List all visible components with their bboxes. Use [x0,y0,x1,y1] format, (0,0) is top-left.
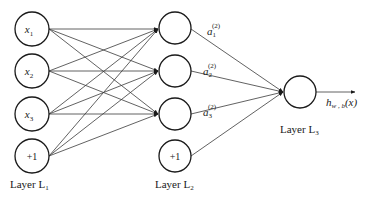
layer-3-label: Layer L3 [280,123,319,137]
layer-2-label: Layer L2 [155,178,194,192]
input-node-x3 [15,97,49,131]
hidden-node-1 [159,12,191,44]
input-node-x1 [15,12,49,46]
hidden-node-2 [159,55,191,87]
edges-l1-l2 [49,29,158,156]
layer-1-label: Layer L1 [10,178,49,192]
svg-text:+1: +1 [170,151,181,162]
neural-network-diagram: x1 x2 x3 +1 Layer L1 +1 a1(2) a2(2) a3(2… [0,0,365,201]
edges-l2-l3 [191,29,283,156]
hidden-node-3 [159,98,191,130]
layer-3: Layer L3 [280,76,319,137]
layer-2: +1 a1(2) a2(2) a3(2) Layer L2 [155,12,221,192]
layer-1: x1 x2 x3 +1 Layer L1 [10,12,49,192]
input-node-x2 [15,54,49,88]
svg-text:+1: +1 [27,151,38,162]
output-node [284,76,316,108]
activation-a1: a1(2) [207,22,221,39]
output-hypothesis-label: hw , b(x) [326,96,357,110]
activation-a3: a3(2) [203,103,217,120]
